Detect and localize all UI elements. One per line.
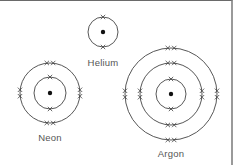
electron-shell-diagram: Helium Neon Argon — [0, 0, 233, 165]
argon-atom — [123, 46, 219, 142]
neon-label: Neon — [38, 132, 62, 143]
helium-label: Helium — [88, 57, 119, 68]
nucleus-dot — [169, 92, 173, 96]
argon-label: Argon — [158, 148, 184, 159]
helium-atom — [88, 15, 118, 49]
neon-atom — [18, 61, 82, 125]
nucleus-dot — [101, 30, 105, 34]
nucleus-dot — [48, 91, 52, 95]
